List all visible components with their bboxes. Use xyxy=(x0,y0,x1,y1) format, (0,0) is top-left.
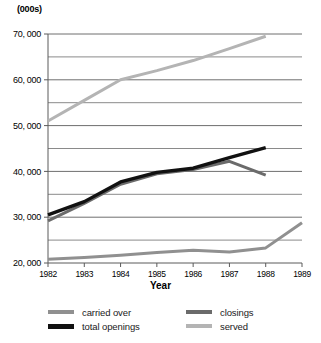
svg-text:1986: 1986 xyxy=(184,269,202,279)
legend-label-total-openings: total openings xyxy=(82,321,140,332)
svg-text:1988: 1988 xyxy=(257,269,275,279)
svg-text:60, 000: 60, 000 xyxy=(13,75,41,85)
legend-label-carried-over: carried over xyxy=(82,307,131,318)
svg-text:50, 000: 50, 000 xyxy=(13,121,41,131)
chart-legend: carried over closings total openings ser… xyxy=(48,305,298,333)
svg-text:1982: 1982 xyxy=(39,269,57,279)
legend-item-closings: closings xyxy=(186,305,298,319)
chart-container: (000s) 20, 00030, 00040, 00050, 00060, 0… xyxy=(0,0,321,343)
x-axis-tick-labels: 19821983198419851986198719881989 xyxy=(39,269,311,279)
svg-text:1987: 1987 xyxy=(221,269,239,279)
svg-text:1985: 1985 xyxy=(148,269,166,279)
y-axis-tick-labels: 20, 00030, 00040, 00050, 00060, 00070, 0… xyxy=(13,29,41,268)
svg-text:70, 000: 70, 000 xyxy=(13,29,41,39)
svg-text:1983: 1983 xyxy=(75,269,93,279)
x-axis-tick-marks xyxy=(44,34,302,267)
legend-swatch-closings xyxy=(186,310,212,314)
legend-label-served: served xyxy=(220,321,248,332)
legend-item-total-openings: total openings xyxy=(48,319,186,333)
legend-item-carried-over: carried over xyxy=(48,305,186,319)
legend-label-closings: closings xyxy=(220,307,254,318)
x-axis-title: Year xyxy=(0,280,321,291)
svg-text:1984: 1984 xyxy=(112,269,130,279)
svg-text:1989: 1989 xyxy=(293,269,311,279)
legend-swatch-served xyxy=(186,324,212,328)
svg-text:30, 000: 30, 000 xyxy=(13,212,41,222)
svg-text:20, 000: 20, 000 xyxy=(13,258,41,268)
data-series-lines xyxy=(48,36,302,259)
legend-swatch-carried-over xyxy=(48,310,74,314)
legend-item-served: served xyxy=(186,319,298,333)
chart-plot-area: 20, 00030, 00040, 00050, 00060, 00070, 0… xyxy=(0,0,321,343)
legend-swatch-total-openings xyxy=(48,324,74,329)
major-gridlines xyxy=(48,34,302,217)
svg-text:40, 000: 40, 000 xyxy=(13,167,41,177)
